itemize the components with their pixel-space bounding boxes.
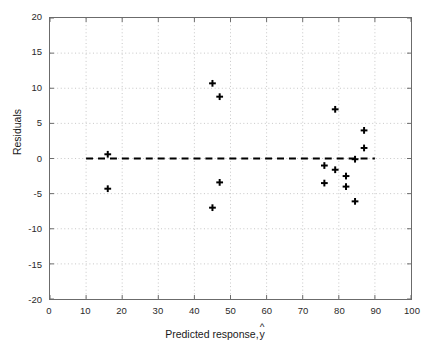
x-tick-label: 80 [334, 306, 345, 316]
data-point [104, 151, 111, 158]
data-point [321, 162, 328, 169]
data-point [352, 156, 359, 163]
y-tick-label: -20 [8, 295, 42, 305]
data-point [209, 204, 216, 211]
x-tick-label: 20 [116, 306, 127, 316]
residual-plot-figure: -20-15-10-505101520 01020304050607080901… [0, 0, 431, 352]
scatter-series [50, 18, 411, 299]
x-tick-label: 0 [46, 306, 51, 316]
y-tick-label: -15 [8, 260, 42, 270]
x-tick-label: 60 [262, 306, 273, 316]
y-tick-label: -5 [8, 189, 42, 199]
x-tick-label: 40 [189, 306, 200, 316]
x-axis-label: Predicted response,^y [0, 328, 431, 340]
x-tick-label: 50 [225, 306, 236, 316]
y-tick-label: 20 [8, 12, 42, 22]
data-point [361, 127, 368, 134]
data-point [216, 179, 223, 186]
data-point [216, 93, 223, 100]
data-point [352, 198, 359, 205]
y-axis-label: Residuals [11, 87, 23, 177]
plot-area [49, 17, 412, 300]
y-hat-symbol: ^y [259, 328, 266, 340]
x-tick-label: 100 [404, 306, 420, 316]
x-tick-label: 10 [80, 306, 91, 316]
data-point [343, 173, 350, 180]
data-point [332, 106, 339, 113]
data-point [209, 80, 216, 87]
data-point [343, 183, 350, 190]
circumflex-accent: ^ [260, 322, 265, 332]
data-point [332, 166, 339, 173]
x-tick-label: 90 [370, 306, 381, 316]
x-tick-label: 70 [298, 306, 309, 316]
data-point [361, 145, 368, 152]
data-point [104, 185, 111, 192]
y-tick-label: 15 [8, 48, 42, 58]
data-point [321, 180, 328, 187]
x-tick-label: 30 [153, 306, 164, 316]
y-tick-label: -10 [8, 225, 42, 235]
x-axis-label-text: Predicted response, [165, 328, 258, 340]
